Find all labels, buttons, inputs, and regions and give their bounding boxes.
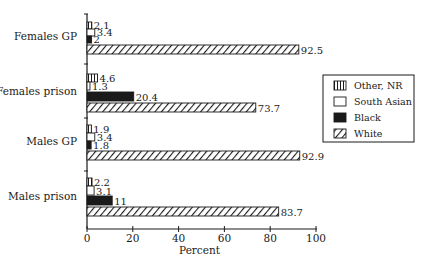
bar-value-label: 3.1: [96, 186, 112, 197]
bar-value-label: 20.4: [136, 92, 158, 103]
legend-swatch: [334, 113, 346, 122]
legend-label: Black: [354, 112, 381, 123]
legend-label: Other, NR: [354, 80, 403, 91]
legend-swatch: [334, 81, 346, 90]
bar-value-label: 2: [94, 34, 100, 45]
x-tick-label: 40: [172, 232, 185, 244]
bar-black: [87, 36, 92, 43]
bar-value-label: 92.9: [302, 151, 324, 162]
bar-south-asian: [87, 82, 90, 90]
x-tick-label: 100: [306, 232, 326, 244]
x-axis-title: Percent: [179, 244, 221, 256]
bar-other-nr: [87, 178, 92, 186]
bar-value-label: 1.3: [92, 81, 108, 92]
bar-value-label: 11: [114, 196, 127, 207]
bar-south-asian: [87, 186, 94, 195]
bar-value-label: 73.7: [258, 103, 280, 114]
bar-black: [87, 141, 91, 149]
legend-label: White: [354, 128, 383, 139]
category-label: Females prison: [0, 85, 77, 97]
legend-swatch: [334, 129, 346, 138]
x-tick-label: 80: [264, 232, 277, 244]
bar-chart: 020406080100PercentFemales GPFemales pri…: [0, 0, 422, 267]
bar-value-label: 1.8: [93, 140, 109, 151]
category-label: Females GP: [14, 30, 77, 42]
category-label: Males GP: [26, 135, 77, 147]
bar-white: [87, 151, 300, 160]
bar-white: [87, 207, 279, 216]
legend: Other, NRSouth AsianBlackWhite: [323, 75, 414, 142]
bar-white: [87, 103, 256, 112]
bar-black: [87, 92, 134, 101]
bar-white: [87, 45, 299, 54]
legend-label: South Asian: [354, 96, 412, 107]
category-label: Males prison: [8, 190, 77, 202]
bar-value-label: 83.7: [281, 207, 303, 218]
bar-value-label: 92.5: [301, 45, 323, 56]
bar-other-nr: [87, 125, 91, 133]
bar-other-nr: [87, 22, 92, 29]
x-tick-label: 20: [126, 232, 139, 244]
bar-black: [87, 196, 112, 205]
x-tick-label: 60: [218, 232, 231, 244]
legend-swatch: [334, 97, 346, 106]
x-tick-label: 0: [84, 232, 91, 244]
bars: 2.13.4292.54.61.320.473.71.93.41.892.92.…: [87, 20, 324, 218]
